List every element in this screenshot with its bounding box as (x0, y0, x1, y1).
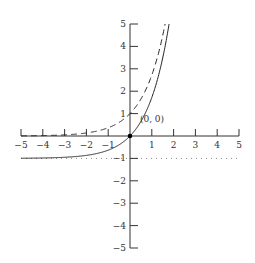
y-tick-label: −4 (113, 221, 127, 231)
x-tick-label: 4 (214, 140, 220, 150)
plot-area: −5−4−3−2−11234554321−1−2−3−4−5 (0, 0) (0, 0, 255, 263)
x-tick-label: −3 (58, 140, 72, 150)
y-tick-label: 1 (120, 109, 126, 119)
y-tick-label: 4 (120, 41, 126, 51)
origin-label: (0, 0) (140, 114, 164, 124)
origin-point-marker (128, 134, 133, 139)
x-tick-label: 3 (193, 140, 199, 150)
y-tick-label: −2 (113, 176, 126, 186)
x-tick-label: −4 (36, 140, 50, 150)
y-tick-label: −3 (113, 198, 127, 208)
exponential-chart: −5−4−3−2−11234554321−1−2−3−4−5 (0, 0) (0, 0, 255, 263)
y-tick-label: 3 (120, 64, 126, 74)
y-tick-label: −1 (113, 153, 126, 163)
series-solid-exp-minus-one (21, 24, 169, 158)
y-tick-label: 2 (120, 86, 126, 96)
y-tick-label: 5 (120, 19, 126, 29)
y-tick-label: −5 (113, 243, 127, 253)
x-tick-label: −5 (14, 140, 28, 150)
x-tick-label: 2 (171, 140, 177, 150)
series (21, 24, 169, 158)
x-tick-label: 1 (149, 140, 155, 150)
x-tick-label: 5 (236, 140, 242, 150)
annotations: (0, 0) (128, 114, 164, 138)
x-tick-label: −2 (80, 140, 93, 150)
